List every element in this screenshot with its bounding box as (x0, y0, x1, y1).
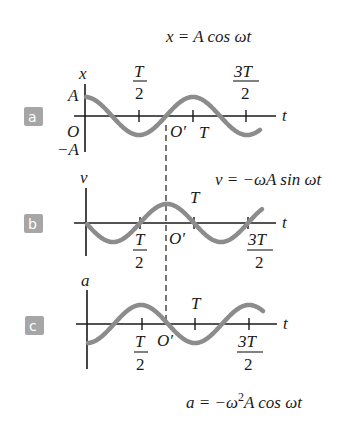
axis-label-a: a (81, 271, 90, 290)
label-half-den-c: 2 (136, 355, 145, 374)
shm-diagram: x = A cos ωt a x t A O −A O′ T T 2 3T 2 … (0, 0, 352, 432)
label-half-num-a: T (134, 62, 145, 81)
axis-label-t-a: t (282, 106, 288, 125)
equation-a-suffix: A cos ωt (243, 393, 303, 412)
label-half-den-a: 2 (135, 84, 144, 103)
label-oprime-b: O′ (169, 229, 185, 248)
badge-a-label: a (28, 109, 37, 125)
label-T-b: T (190, 188, 201, 207)
label-half-num-c: T (135, 332, 146, 351)
label-half-num-b: T (135, 230, 146, 249)
equation-v: v = −ωA sin ωt (215, 170, 322, 189)
label-oprime-a: O′ (170, 122, 186, 141)
equation-a-prefix: a = −ω (186, 393, 238, 412)
label-3half-num-b: 3T (247, 230, 268, 249)
label-3half-num-c: 3T (237, 332, 258, 351)
badge-b-label: b (28, 216, 37, 232)
label-oprime-c: O′ (157, 331, 173, 350)
equation-x: x = A cos ωt (165, 27, 252, 46)
equation-a: a = −ω2A cos ωt (186, 390, 303, 412)
label-T-a: T (199, 123, 210, 142)
label-origin: O (67, 122, 79, 141)
badge-c-label: c (29, 318, 37, 334)
panel-c: c a t T O′ T 2 3T 2 a = −ω2A cos ωt (25, 271, 303, 412)
label-half-den-b: 2 (135, 253, 144, 272)
label-3half-num-a: 3T (233, 62, 254, 81)
axis-label-x: x (78, 64, 87, 83)
axis-label-v: v (80, 168, 88, 187)
label-3half-den-a: 2 (241, 84, 250, 103)
label-minus-A: −A (57, 140, 79, 159)
label-3half-den-b: 2 (255, 253, 264, 272)
label-3half-den-c: 2 (244, 355, 253, 374)
axis-label-t-c: t (283, 314, 289, 333)
panel-b: v = −ωA sin ωt b v t T O′ T 2 3T 2 (24, 168, 322, 272)
label-T-c: T (191, 294, 202, 313)
label-A: A (67, 86, 79, 105)
axis-label-t-b: t (282, 213, 288, 232)
panel-a: a x t A O −A O′ T T 2 3T 2 (24, 62, 288, 159)
